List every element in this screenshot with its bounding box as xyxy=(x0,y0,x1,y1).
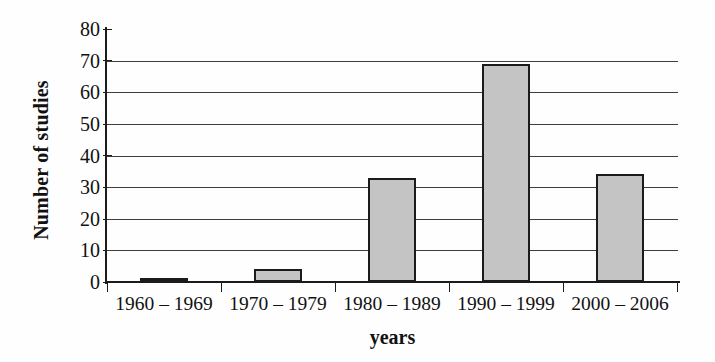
plot-area xyxy=(107,29,678,282)
gridline-70 xyxy=(107,61,678,62)
bar-chart: Number of studies 80 70 60 50 40 30 20 1… xyxy=(0,0,715,362)
y-axis-line xyxy=(105,27,107,284)
x-tick-mark-0 xyxy=(107,282,108,292)
y-tick-label-10: 10 xyxy=(56,240,100,260)
bar-2000-2006 xyxy=(596,174,644,282)
y-tick-label-50: 50 xyxy=(56,114,100,134)
y-axis-title: Number of studies xyxy=(28,20,54,300)
x-tick-label-1970-1979: 1970 – 1979 xyxy=(213,293,343,315)
x-tick-label-1980-1989: 1980 – 1989 xyxy=(327,293,457,315)
x-tick-mark-1 xyxy=(221,282,222,292)
y-tick-label-30: 30 xyxy=(56,177,100,197)
gridline-50 xyxy=(107,124,678,125)
y-tick-label-80: 80 xyxy=(56,19,100,39)
x-axis-title: years xyxy=(107,325,678,349)
x-tick-label-2000-2006: 2000 – 2006 xyxy=(555,293,685,315)
y-tick-label-20: 20 xyxy=(56,209,100,229)
x-axis-line xyxy=(105,281,680,283)
x-tick-mark-5 xyxy=(677,282,678,292)
x-tick-mark-3 xyxy=(449,282,450,292)
gridline-40 xyxy=(107,156,678,157)
bar-1980-1989 xyxy=(368,178,416,282)
y-tick-label-40: 40 xyxy=(56,146,100,166)
gridline-60 xyxy=(107,92,678,93)
bar-1990-1999 xyxy=(482,64,530,282)
x-tick-label-1960-1969: 1960 – 1969 xyxy=(99,293,229,315)
y-tick-label-70: 70 xyxy=(56,51,100,71)
x-tick-mark-2 xyxy=(335,282,336,292)
y-tick-label-0: 0 xyxy=(56,272,100,292)
x-tick-mark-4 xyxy=(563,282,564,292)
x-tick-label-1990-1999: 1990 – 1999 xyxy=(441,293,571,315)
y-tick-label-60: 60 xyxy=(56,82,100,102)
